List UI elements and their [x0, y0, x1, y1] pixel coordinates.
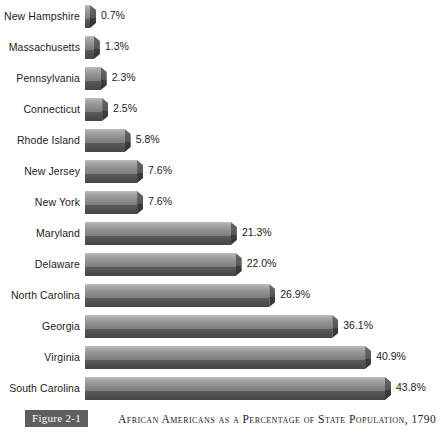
bar-row: New York7.6%: [0, 188, 444, 219]
bar-face: [85, 346, 365, 369]
bar-category-label: Delaware: [0, 258, 80, 270]
bar-value-label: 43.8%: [396, 381, 426, 393]
bar-category-label: Virginia: [0, 351, 80, 363]
bar-category-label: Georgia: [0, 320, 80, 332]
bar-face: [85, 377, 385, 400]
bar-value-label: 40.9%: [376, 350, 406, 362]
bar-bevel-tip: [231, 222, 237, 245]
bar-face: [85, 67, 101, 90]
bar: [85, 98, 102, 121]
bar-value-label: 2.5%: [113, 102, 137, 114]
bar-face: [85, 5, 90, 28]
bar-bevel-tip: [137, 191, 143, 214]
bar: [85, 377, 385, 400]
bar-face: [85, 253, 236, 276]
bar-row: North Carolina26.9%: [0, 281, 444, 312]
bar-value-label: 1.3%: [105, 40, 129, 52]
bar-value-label: 22.0%: [247, 257, 277, 269]
bar-face: [85, 315, 332, 338]
figure-title: African Americans as a Percentage of Sta…: [118, 411, 436, 427]
bar-bevel-tip: [385, 377, 391, 400]
bar: [85, 191, 137, 214]
bar-category-label: Pennsylvania: [0, 72, 80, 84]
bar-bevel-tip: [125, 129, 131, 152]
bar-face: [85, 98, 102, 121]
bar-category-label: Connecticut: [0, 103, 80, 115]
bar-row: Connecticut2.5%: [0, 95, 444, 126]
bar-row: Maryland21.3%: [0, 219, 444, 250]
bar-bevel-tip: [102, 98, 108, 121]
bar: [85, 160, 137, 183]
bar-bevel-tip: [332, 315, 338, 338]
bar-category-label: Rhode Island: [0, 134, 80, 146]
bar: [85, 284, 269, 307]
bar: [85, 5, 90, 28]
bar-row: New Jersey7.6%: [0, 157, 444, 188]
bar: [85, 253, 236, 276]
bar-bevel-tip: [101, 67, 107, 90]
bar-category-label: New Jersey: [0, 165, 80, 177]
bar-value-label: 7.6%: [148, 195, 172, 207]
bar-category-label: Massachusetts: [0, 41, 80, 53]
bar: [85, 67, 101, 90]
bar-chart: New Hampshire0.7%Massachusetts1.3%Pennsy…: [0, 0, 444, 406]
bar-row: Virginia40.9%: [0, 343, 444, 374]
bar-row: Georgia36.1%: [0, 312, 444, 343]
bar-row: South Carolina43.8%: [0, 374, 444, 405]
bar-row: Delaware22.0%: [0, 250, 444, 281]
bar-face: [85, 160, 137, 183]
bar-value-label: 7.6%: [148, 164, 172, 176]
bar: [85, 222, 231, 245]
bar-face: [85, 36, 94, 59]
bar-category-label: South Carolina: [0, 382, 80, 394]
bar-bevel-tip: [94, 36, 100, 59]
bar-face: [85, 129, 125, 152]
bar-face: [85, 284, 269, 307]
bar-row: Massachusetts1.3%: [0, 33, 444, 64]
bar-value-label: 21.3%: [242, 226, 272, 238]
bar-row: Rhode Island5.8%: [0, 126, 444, 157]
bar-category-label: North Carolina: [0, 289, 80, 301]
bar-category-label: New Hampshire: [0, 10, 80, 22]
bar-value-label: 36.1%: [343, 319, 373, 331]
bar-row: New Hampshire0.7%: [0, 2, 444, 33]
bar-bevel-tip: [365, 346, 371, 369]
figure-number-badge: Figure 2-1: [25, 410, 88, 427]
bar-bevel-tip: [137, 160, 143, 183]
bar-value-label: 26.9%: [280, 288, 310, 300]
bar: [85, 315, 332, 338]
bar-bevel-tip: [269, 284, 275, 307]
bar-face: [85, 222, 231, 245]
bar-category-label: New York: [0, 196, 80, 208]
bar-value-label: 0.7%: [101, 9, 125, 21]
bar-face: [85, 191, 137, 214]
bar-value-label: 2.3%: [112, 71, 136, 83]
bar-value-label: 5.8%: [136, 133, 160, 145]
bar: [85, 36, 94, 59]
bar-bevel-tip: [236, 253, 242, 276]
bar: [85, 346, 365, 369]
bar-category-label: Maryland: [0, 227, 80, 239]
figure-caption: Figure 2-1 African Americans as a Percen…: [0, 410, 444, 432]
bar-row: Pennsylvania2.3%: [0, 64, 444, 95]
bar: [85, 129, 125, 152]
bar-bevel-tip: [90, 5, 96, 28]
